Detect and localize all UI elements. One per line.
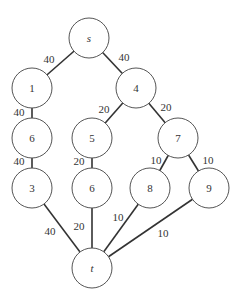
capacity-label: 20	[161, 101, 173, 113]
node-n3: 3	[12, 168, 52, 208]
node-label: 8	[147, 182, 153, 194]
node-label: 5	[89, 132, 95, 144]
node-s: s	[69, 18, 109, 58]
capacity-label: 10	[158, 227, 170, 239]
node-n4: 4	[116, 68, 156, 108]
capacity-label: 40	[14, 106, 26, 118]
capacity-label: 40	[14, 155, 26, 167]
node-label: 6	[29, 132, 35, 144]
node-label: 1	[29, 82, 35, 94]
node-n6b: 6	[72, 168, 112, 208]
node-label: 7	[175, 132, 181, 144]
node-n8: 8	[130, 168, 170, 208]
node-label: 6	[89, 182, 95, 194]
node-label: s	[87, 32, 91, 44]
node-n7: 7	[158, 118, 198, 158]
capacity-label: 20	[74, 155, 86, 167]
capacity-label: 10	[203, 154, 215, 166]
node-label: 9	[206, 182, 212, 194]
node-label: 4	[133, 82, 139, 94]
node-n9: 9	[189, 168, 229, 208]
node-t: t	[72, 248, 112, 288]
capacity-label: 10	[113, 211, 125, 223]
capacity-label: 40	[45, 225, 57, 237]
node-n5: 5	[72, 118, 112, 158]
capacity-label: 40	[119, 51, 131, 63]
capacity-label: 20	[74, 220, 86, 232]
capacity-label: 10	[151, 154, 163, 166]
flow-network-diagram: 40404020204020101040201010 s146573689t	[0, 0, 239, 302]
capacity-label: 20	[99, 103, 111, 115]
node-n1: 1	[12, 68, 52, 108]
node-label: 3	[29, 182, 35, 194]
capacity-label: 40	[44, 53, 56, 65]
node-n6a: 6	[12, 118, 52, 158]
